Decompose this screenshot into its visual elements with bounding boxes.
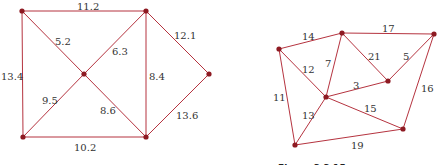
- edge-weight-label: 14: [302, 31, 315, 42]
- graph-diagrams: 11.25.26.312.113.48.49.58.613.610.2 1417…: [0, 0, 439, 165]
- edge-weight-label: 12.1: [174, 30, 196, 41]
- right-weighted-graph: 141712721531611131519: [273, 23, 437, 151]
- graph-edge: [295, 97, 326, 145]
- edge-weight-label: 5: [403, 51, 409, 62]
- graph-node: [400, 126, 405, 131]
- edge-weight-label: 5.2: [55, 36, 71, 47]
- graph-node: [143, 8, 148, 13]
- edge-weight-label: 7: [325, 58, 331, 69]
- edge-weight-label: 12: [302, 64, 315, 75]
- graph-edge: [146, 74, 209, 137]
- graph-node: [323, 94, 328, 99]
- edge-weight-label: 15: [364, 103, 377, 114]
- edge-weight-label: 19: [351, 140, 364, 151]
- graph-node: [81, 71, 86, 76]
- graph-edge: [146, 11, 209, 74]
- edge-weight-label: 8.4: [149, 71, 165, 82]
- edge-weight-label: 3: [353, 80, 359, 91]
- edge-weight-label: 13: [302, 110, 315, 121]
- edge-weight-label: 6.3: [112, 46, 128, 57]
- graph-node: [431, 31, 436, 36]
- graph-edge: [403, 34, 434, 129]
- graph-node: [206, 71, 211, 76]
- graph-edge: [388, 34, 434, 81]
- graph-node: [339, 30, 344, 35]
- edge-weight-label: 10.2: [74, 142, 96, 153]
- graph-node: [292, 142, 297, 147]
- figure-caption: Figure 2.2.15: [278, 163, 346, 165]
- edge-weight-label: 13.6: [176, 110, 198, 121]
- graph-node: [143, 134, 148, 139]
- graph-edge: [84, 11, 146, 74]
- edge-weight-label: 8.6: [100, 105, 116, 116]
- graph-edge: [295, 129, 403, 145]
- edge-weight-label: 21: [368, 51, 381, 62]
- edge-weight-label: 16: [421, 83, 434, 94]
- edge-weight-label: 11.2: [77, 1, 99, 12]
- edge-weight-label: 17: [382, 23, 395, 34]
- edge-weight-label: 13.4: [1, 71, 23, 82]
- graph-edge: [22, 11, 84, 74]
- left-weighted-graph: 11.25.26.312.113.48.49.58.613.610.2: [1, 1, 212, 153]
- graph-node: [276, 46, 281, 51]
- graph-node: [20, 134, 25, 139]
- edge-weight-label: 11: [273, 92, 286, 103]
- graph-node: [19, 8, 24, 13]
- edge-weight-label: 9.5: [42, 95, 58, 106]
- graph-edge: [342, 33, 388, 81]
- graph-node: [385, 78, 390, 83]
